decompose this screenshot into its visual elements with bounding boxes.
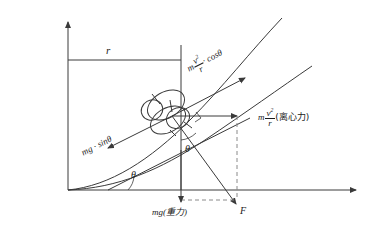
resultant-label: F <box>240 205 246 216</box>
centrifugal-label: mv2r(离心力) <box>258 108 309 128</box>
force-vectors <box>108 78 245 204</box>
normal-component-vector <box>172 78 245 116</box>
resultant-vector <box>172 116 236 204</box>
centrifugal-suffix: (离心力) <box>275 112 309 122</box>
road-curve-lower <box>68 66 312 190</box>
centrifugal-denominator: r <box>265 119 276 128</box>
gravity-text: mg(重力) <box>152 207 187 217</box>
diagram-svg <box>0 0 370 240</box>
diagram-canvas: r mv2r· cosθ mv2r(离心力) mg · sinθ mg(重力) … <box>0 0 370 240</box>
angle-label-base: θ <box>131 169 136 180</box>
radius-label: r <box>106 44 110 56</box>
normal-component-suffix: · cosθ <box>201 47 224 65</box>
centrifugal-fraction: v2r <box>265 108 276 128</box>
tangent-line <box>108 118 250 190</box>
gravity-label: mg(重力) <box>152 205 187 218</box>
angle-label-car: θ <box>185 143 190 154</box>
car-shape <box>137 84 193 140</box>
road-curve <box>68 18 282 190</box>
gravity-component-vector <box>108 116 172 148</box>
